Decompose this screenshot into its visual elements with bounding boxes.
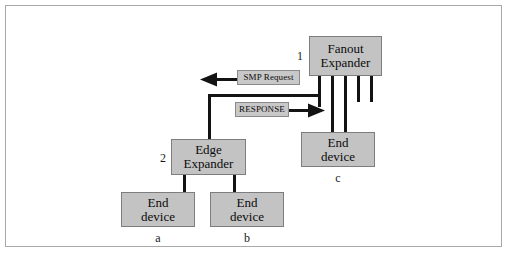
node-end-device-b-line2: device	[230, 210, 264, 224]
smp-request-arrowhead-icon	[200, 72, 220, 88]
wire-fanout-port-2-to-end-device-c	[331, 76, 334, 133]
wire-fanout-port-3-to-end-device-c	[344, 76, 347, 133]
wire-fanout-port-5	[370, 76, 373, 102]
label-smp-request[interactable]: SMP Request	[237, 70, 300, 85]
node-end-device-a-line1: End	[148, 196, 169, 210]
node-edge-expander-line2: Expander	[184, 157, 234, 171]
response-arrowhead-icon	[305, 103, 325, 119]
node-end-device-a-line2: device	[141, 210, 175, 224]
wire-edge-to-end-device-b	[233, 174, 236, 193]
node-edge-expander-line1: Edge	[195, 143, 222, 157]
tag-edge-expander: 2	[157, 152, 169, 164]
wire-fanout-to-edge-horizontal	[208, 94, 321, 97]
node-end-device-b[interactable]: End device	[210, 192, 284, 227]
node-end-device-c[interactable]: End device	[301, 132, 375, 167]
wire-fanout-port-4	[357, 76, 360, 102]
node-end-device-a[interactable]: End device	[121, 192, 195, 227]
tag-fanout-expander: 1	[294, 50, 306, 62]
wire-edge-to-end-device-a	[183, 174, 186, 193]
label-response[interactable]: RESPONSE	[235, 102, 289, 117]
node-end-device-c-line2: device	[321, 150, 355, 164]
node-fanout-expander-line2: Expander	[321, 56, 371, 70]
diagram-canvas: Fanout Expander 1 Edge Expander 2 End de…	[0, 0, 509, 254]
node-end-device-b-line1: End	[237, 196, 258, 210]
node-edge-expander[interactable]: Edge Expander	[171, 139, 246, 175]
node-fanout-expander[interactable]: Fanout Expander	[309, 36, 382, 76]
tag-end-device-c: c	[301, 172, 375, 184]
diagram-frame: Fanout Expander 1 Edge Expander 2 End de…	[5, 5, 502, 247]
node-end-device-c-line1: End	[328, 136, 349, 150]
node-fanout-expander-line1: Fanout	[327, 42, 363, 56]
tag-end-device-a: a	[121, 232, 195, 244]
wire-edge-riser	[208, 94, 211, 140]
tag-end-device-b: b	[210, 232, 284, 244]
